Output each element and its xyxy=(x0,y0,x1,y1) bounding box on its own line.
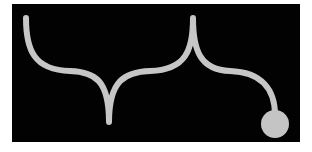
end-dot xyxy=(261,110,289,138)
brace-drawing xyxy=(0,0,312,152)
brace-path xyxy=(26,18,275,122)
